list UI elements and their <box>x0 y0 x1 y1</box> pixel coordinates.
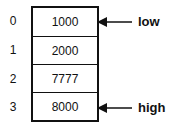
left-arrow-icon <box>97 15 133 29</box>
low-pointer-arrow <box>97 15 133 29</box>
index-label-0: 0 <box>8 14 18 28</box>
left-arrow-icon <box>97 101 133 115</box>
index-label-1: 1 <box>8 43 18 57</box>
array-cell-1: 2000 <box>33 36 97 65</box>
array-box: 1000 2000 7777 8000 <box>31 6 99 122</box>
high-pointer-label: high <box>138 100 165 115</box>
low-pointer-label: low <box>138 14 160 29</box>
index-label-2: 2 <box>8 72 18 86</box>
index-label-3: 3 <box>8 100 18 114</box>
array-cell-2: 7777 <box>33 64 97 93</box>
high-pointer-arrow <box>97 101 133 115</box>
array-cell-0: 1000 <box>33 8 97 36</box>
array-cell-3: 8000 <box>33 92 97 121</box>
